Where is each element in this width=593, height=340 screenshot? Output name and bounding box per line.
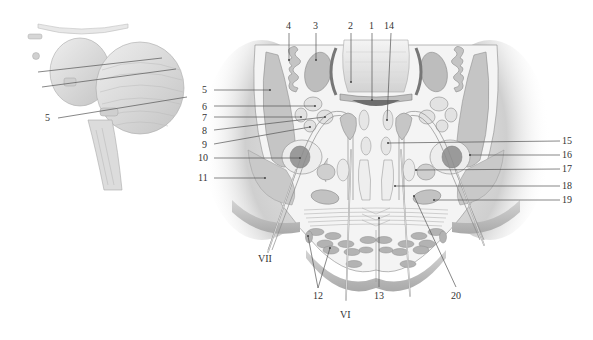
label-9: 9 [202,139,207,150]
cross-section [202,40,550,300]
label-8: 8 [202,125,207,136]
label-2: 2 [348,20,353,31]
label-20: 20 [451,290,461,301]
label-16: 16 [562,149,572,160]
label-18: 18 [562,180,572,191]
label-17: 17 [562,163,572,174]
label-nerve-VI: VI [340,309,351,320]
label-nerve-VII: VII [258,253,272,264]
brainstem-figure: 5 [0,0,593,340]
label-12: 12 [313,290,323,301]
label-3: 3 [313,20,318,31]
label-10: 10 [198,152,208,163]
label-19: 19 [562,194,572,205]
label-13: 13 [374,290,384,301]
label-15: 15 [562,135,572,146]
label-4: 4 [286,20,291,31]
label-6: 6 [202,101,207,112]
inset-label-5: 5 [45,112,50,123]
label-1: 1 [369,20,374,31]
inset-brainstem-lateral-view: 5 [28,24,187,190]
label-14: 14 [384,20,394,31]
label-5: 5 [202,84,207,95]
label-11: 11 [198,172,208,183]
label-7: 7 [202,112,207,123]
